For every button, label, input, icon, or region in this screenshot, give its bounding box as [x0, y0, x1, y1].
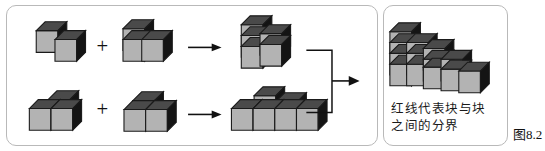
- row-1-plus-operator: +: [96, 35, 108, 57]
- row-1-result: [241, 16, 290, 68]
- row-2-plus-operator: +: [96, 98, 108, 120]
- figure-left-panel: +: [6, 5, 378, 146]
- row-2-arrow: [188, 110, 222, 118]
- svg-text:+: +: [96, 35, 108, 57]
- row-1-arrow: [188, 43, 222, 51]
- figure-right-panel: 红线代表块与块 之间的分界: [383, 5, 508, 146]
- row-1-operand-a: [36, 22, 85, 61]
- figure-root: +: [0, 0, 545, 151]
- row-2-operand-a: [29, 91, 81, 130]
- svg-text:+: +: [96, 98, 108, 120]
- staircase-assembly: [390, 23, 489, 93]
- left-panel-diagram: +: [7, 6, 377, 145]
- row-1-operand-b: [123, 20, 172, 61]
- row-2-operand-b: [124, 92, 176, 131]
- figure-caption: 红线代表块与块 之间的分界: [391, 100, 503, 134]
- row-2-result: [231, 87, 327, 130]
- figure-number-label: 图8.2: [513, 124, 542, 143]
